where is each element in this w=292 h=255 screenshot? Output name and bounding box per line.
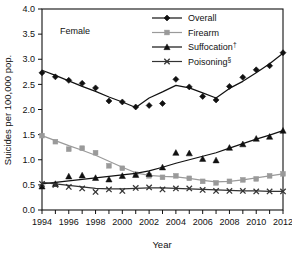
data-point-square <box>214 180 219 185</box>
legend-label: Overall <box>188 13 217 23</box>
y-tick-label: 0.0 <box>22 205 35 215</box>
y-axis-title: Suicides per 100,000 pop. <box>2 55 13 165</box>
legend-superscript: § <box>228 56 232 63</box>
x-tick-label: 1994 <box>32 217 52 227</box>
data-point-square <box>187 176 192 181</box>
x-tick-label: 2006 <box>193 217 213 227</box>
data-point-square <box>254 176 259 181</box>
x-tick-label: 2012 <box>273 217 292 227</box>
data-point-square <box>227 179 232 184</box>
data-point-square <box>107 163 112 168</box>
x-axis-title: Year <box>152 239 171 250</box>
x-tick-label: 2008 <box>219 217 239 227</box>
data-point-square <box>173 173 178 178</box>
y-tick-label: 0.5 <box>22 180 35 190</box>
x-tick-label: 2010 <box>246 217 266 227</box>
data-point-square <box>53 139 58 144</box>
x-tick-label: 1996 <box>59 217 79 227</box>
legend-superscript: † <box>233 41 237 48</box>
y-tick-label: 4.0 <box>22 4 35 14</box>
data-point-square <box>66 147 71 152</box>
panel-label: Female <box>60 26 90 36</box>
data-point-square <box>80 146 85 151</box>
data-point-square <box>120 166 125 171</box>
chart-figure: 1994199619982000200220042006200820102012… <box>0 0 292 255</box>
x-tick-label: 2004 <box>166 217 186 227</box>
data-point-square <box>267 173 272 178</box>
legend-label: Firearm <box>188 28 219 38</box>
data-point-square <box>240 177 245 182</box>
y-tick-label: 1.5 <box>22 130 35 140</box>
x-tick-label: 2002 <box>139 217 159 227</box>
data-point-square <box>160 175 165 180</box>
y-tick-label: 3.5 <box>22 29 35 39</box>
y-tick-label: 1.0 <box>22 155 35 165</box>
y-tick-label: 2.0 <box>22 105 35 115</box>
y-tick-label: 2.5 <box>22 80 35 90</box>
data-point-square <box>165 30 170 35</box>
x-tick-label: 2000 <box>112 217 132 227</box>
x-tick-label: 1998 <box>86 217 106 227</box>
y-tick-label: 3.0 <box>22 54 35 64</box>
data-point-square <box>40 133 45 138</box>
data-point-square <box>200 179 205 184</box>
suicide-rate-line-chart: 1994199619982000200220042006200820102012… <box>0 0 292 255</box>
data-point-square <box>93 150 98 155</box>
legend-label: Poisoning§ <box>188 56 232 67</box>
data-point-square <box>281 171 286 176</box>
y-axis-tick-labels: 0.00.51.01.52.02.53.03.54.0 <box>22 4 35 215</box>
legend-label: Suffocation† <box>188 41 237 52</box>
